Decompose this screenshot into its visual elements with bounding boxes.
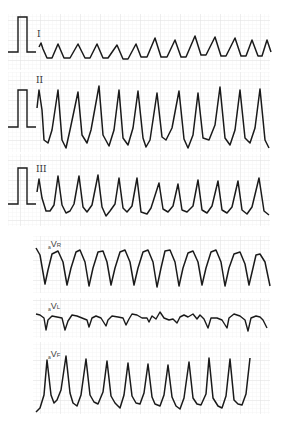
ecg-figure: I II III aVR aVL aVF [0,0,282,429]
lead-label-II: II [36,75,44,85]
lead-I-strip: I [8,14,271,70]
lead-III-strip: III [8,154,270,226]
grid-panel-II [8,72,270,152]
lead-II-strip: II [8,72,270,152]
lead-label-I: I [37,29,41,39]
lead-aVL-strip: aVL [33,298,270,338]
lead-label-III: III [36,164,47,174]
grid-panel-I [8,14,270,70]
lead-aVR-strip: aVR [33,236,270,293]
lead-aVF-strip: aVF [33,342,270,414]
grid-panel-aVR [33,236,270,293]
